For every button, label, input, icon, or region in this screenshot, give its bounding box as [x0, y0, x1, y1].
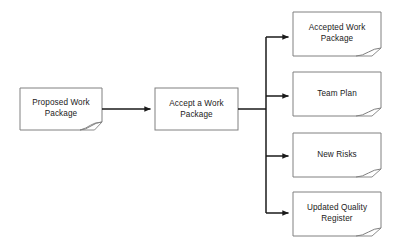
node-new-risks[interactable] [293, 133, 381, 177]
node-proposed-work-package[interactable] [20, 88, 102, 130]
node-accept-a-work-package[interactable] [155, 88, 238, 130]
node-updated-quality-register[interactable] [293, 192, 381, 236]
node-accepted-work-package[interactable] [293, 12, 381, 56]
node-team-plan[interactable] [293, 72, 381, 116]
flowchart-diagram: Proposed Work Package Accept a Work Pack… [0, 0, 401, 246]
diagram-canvas [0, 0, 401, 246]
